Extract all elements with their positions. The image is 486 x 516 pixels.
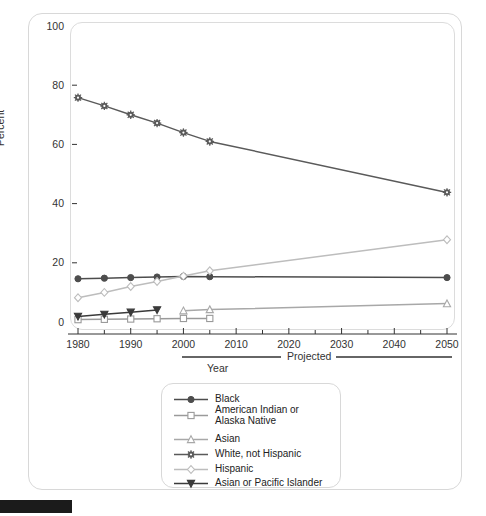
legend-item[interactable]: Asian	[172, 432, 240, 445]
x-tick-label: 1990	[106, 339, 156, 350]
x-tick-label: 2010	[211, 339, 261, 350]
legend-item-label: Hispanic	[215, 463, 253, 474]
legend-item-label: Asian or Pacific Islander	[215, 477, 322, 488]
chart-page: 0204060801001980199020002010202020302040…	[0, 0, 486, 516]
legend-item[interactable]: American Indian or Alaska Native	[172, 408, 299, 421]
x-tick-label: 2040	[369, 339, 419, 350]
x-axis-title: Year	[207, 362, 228, 374]
legend-marker-icon	[172, 447, 210, 460]
y-axis-title: Percent	[0, 110, 6, 146]
y-tick-label: 80	[28, 80, 64, 91]
legend-marker-icon	[172, 432, 210, 445]
x-tick-label: 2050	[422, 339, 472, 350]
legend-item-label: White, not Hispanic	[215, 448, 301, 459]
y-tick-label: 100	[28, 21, 64, 32]
plot-area-frame	[70, 22, 455, 330]
legend-item-label: Black	[215, 393, 239, 404]
legend-marker-icon	[172, 392, 210, 405]
legend-marker-icon	[172, 462, 210, 475]
x-tick-label: 1980	[53, 339, 103, 350]
projected-annotation: Projected	[287, 350, 331, 362]
legend-item-label: Asian	[215, 433, 240, 444]
x-tick-label: 2030	[317, 339, 367, 350]
x-tick-label: 2020	[264, 339, 314, 350]
x-tick-label: 2000	[158, 339, 208, 350]
y-tick-label: 60	[28, 139, 64, 150]
legend-item[interactable]: White, not Hispanic	[172, 447, 301, 460]
legend-item[interactable]: Asian or Pacific Islander	[172, 476, 322, 489]
y-tick-label: 40	[28, 198, 64, 209]
legend-marker-icon	[172, 476, 210, 489]
legend-marker-icon	[172, 408, 210, 421]
bottom-accent-bar	[0, 500, 72, 513]
legend-item[interactable]: Hispanic	[172, 462, 253, 475]
y-tick-label: 20	[28, 257, 64, 268]
chart-legend: BlackAmerican Indian or Alaska NativeAsi…	[161, 383, 341, 488]
legend-item-label: American Indian or Alaska Native	[215, 404, 299, 426]
y-tick-label: 0	[28, 317, 64, 328]
